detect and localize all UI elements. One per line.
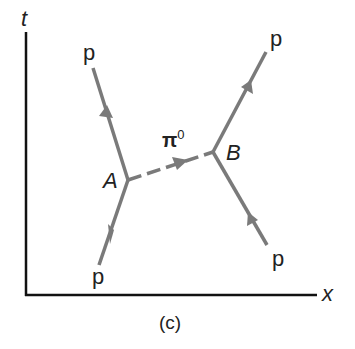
- diagram-canvas: [0, 0, 355, 349]
- proton-label-top-right: p: [270, 28, 282, 50]
- vertex-a-label: A: [103, 170, 118, 192]
- proton-label-top-left: p: [83, 42, 95, 64]
- outgoing-proton-a: [93, 68, 128, 180]
- figure-caption: (c): [159, 313, 181, 332]
- outgoing-proton-b: [213, 52, 266, 152]
- proton-label-bottom-right: p: [272, 248, 284, 270]
- vertex-b-label: B: [226, 142, 241, 164]
- pion-label: π0: [162, 128, 185, 150]
- x-axis-label: x: [322, 283, 333, 305]
- pion-exchange-line: [128, 152, 213, 180]
- pion-charge: 0: [177, 127, 184, 142]
- incoming-proton-b: [213, 152, 267, 245]
- proton-label-bottom-left: p: [92, 266, 104, 288]
- pion-symbol: π: [162, 129, 177, 151]
- t-axis-label: t: [21, 8, 27, 30]
